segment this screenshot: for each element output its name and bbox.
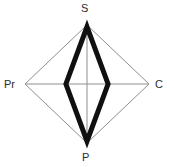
radar-axis-label-left: Pr (4, 78, 15, 90)
radar-axis-label-top: S (81, 2, 88, 14)
radar-axis-label-bottom: P (82, 151, 89, 163)
radar-axis-label-right: C (155, 78, 163, 90)
radar-chart-canvas (0, 0, 174, 167)
radar-chart: S C P Pr (0, 0, 174, 167)
